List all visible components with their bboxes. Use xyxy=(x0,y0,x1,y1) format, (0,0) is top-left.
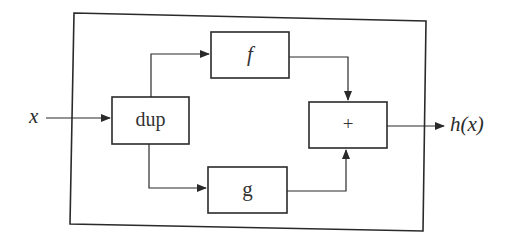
edge-g-to-sum xyxy=(287,150,346,191)
edge-dup-to-g xyxy=(149,144,206,188)
edge-dup-to-f xyxy=(151,54,209,97)
edge-f-to-sum xyxy=(289,57,348,100)
sum-label: + xyxy=(309,102,387,146)
dup-label: dup xyxy=(112,97,189,142)
g-label: g xyxy=(208,167,287,211)
output-label: h(x) xyxy=(450,112,484,137)
f-label: f xyxy=(211,32,289,76)
input-label: x xyxy=(29,104,38,129)
